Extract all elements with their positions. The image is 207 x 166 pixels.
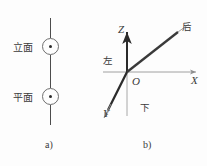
plan-line-lower [50,105,51,125]
figure-canvas: 立面 平面 a) [0,0,207,166]
direction-label-left: 左 [103,56,113,66]
elevation-dot-icon [49,45,52,48]
panel-b: Z X Y O 左 后 下 b) [103,0,207,166]
elevation-label: 立面 [13,43,33,53]
panel-a: 立面 平面 a) [0,0,103,166]
panel-b-caption: b) [143,140,151,150]
y-axis-label: Y [103,108,109,119]
plan-dot-icon [49,95,52,98]
elevation-point-icon [42,38,59,55]
direction-label-back: 后 [182,22,192,32]
panel-a-caption: a) [45,140,53,150]
elevation-line-upper [50,18,51,38]
x-axis-label: X [191,75,198,86]
plan-line-upper [50,68,51,88]
plan-point-icon [42,88,59,105]
plan-label: 平面 [13,93,33,103]
origin-label: O [132,76,140,87]
direction-label-down: 下 [140,103,150,113]
z-axis-label: Z [118,24,124,35]
